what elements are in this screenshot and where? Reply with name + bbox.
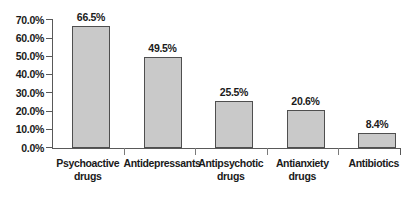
bar <box>215 101 253 148</box>
x-axis-category-label: Psychoactive drugs <box>52 157 124 183</box>
y-axis-label: 50.0% <box>0 51 44 61</box>
x-axis-tick <box>338 148 339 155</box>
bar-value-label: 66.5% <box>61 12 121 23</box>
bar <box>72 26 110 148</box>
bar <box>144 57 182 148</box>
bar <box>287 110 325 148</box>
bar-value-label: 25.5% <box>204 87 264 98</box>
x-axis-category-label: Antibiotics <box>338 157 410 170</box>
x-axis-tick <box>267 148 268 155</box>
bar <box>358 133 396 148</box>
x-axis-category-label: Antianxiety drugs <box>267 157 339 183</box>
y-axis-label: 40.0% <box>0 69 44 79</box>
y-axis-label: 10.0% <box>0 124 44 134</box>
x-axis-category-label: Antidepressants <box>124 157 196 170</box>
bar-value-label: 8.4% <box>347 119 407 130</box>
y-axis-label: 70.0% <box>0 15 44 25</box>
bar-value-label: 49.5% <box>133 43 193 54</box>
y-axis-label: 60.0% <box>0 33 44 43</box>
y-axis-line <box>52 19 53 149</box>
x-axis-category-label: Antipsychotic drugs <box>195 157 267 183</box>
y-axis-label: 20.0% <box>0 106 44 116</box>
bar-chart: 0.0%10.0%20.0%30.0%40.0%50.0%60.0%70.0% … <box>0 0 416 200</box>
x-axis-line <box>52 148 401 149</box>
bar-value-label: 20.6% <box>276 96 336 107</box>
x-axis-endcap <box>400 148 401 155</box>
x-axis-tick <box>124 148 125 155</box>
x-axis-tick <box>195 148 196 155</box>
y-axis-label: 30.0% <box>0 88 44 98</box>
y-axis-label: 0.0% <box>0 143 44 153</box>
